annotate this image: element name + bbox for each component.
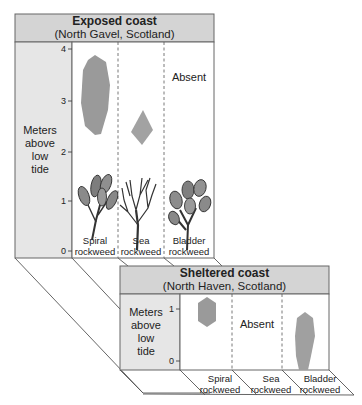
sheltered-sea-absent: Absent bbox=[232, 318, 282, 330]
label-line: rockweed bbox=[295, 385, 345, 396]
tick-0: 0 bbox=[52, 246, 66, 256]
y-label-line: tide bbox=[15, 163, 65, 176]
sheltered-col-label-bladder: Bladder rockweed bbox=[295, 374, 345, 395]
y-label-line: above bbox=[120, 319, 172, 332]
sheltered-subtitle: (North Haven, Scotland) bbox=[120, 280, 329, 293]
label-line: Sea bbox=[118, 236, 164, 247]
tick-1: 1 bbox=[52, 196, 66, 206]
sheltered-col-label-sea: Sea rockweed bbox=[246, 374, 296, 395]
label-line: rockweed bbox=[72, 247, 118, 258]
tick-0: 0 bbox=[160, 356, 174, 366]
label-line: Bladder bbox=[164, 236, 214, 247]
exposed-col-label-spiral: Spiral rockweed bbox=[72, 236, 118, 257]
label-line: Spiral bbox=[72, 236, 118, 247]
exposed-bladder-absent: Absent bbox=[164, 71, 214, 83]
exposed-col-label-sea: Sea rockweed bbox=[118, 236, 164, 257]
tick-4: 4 bbox=[52, 44, 66, 54]
label-line: rockweed bbox=[118, 247, 164, 258]
label-line: rockweed bbox=[196, 385, 244, 396]
tick-2: 2 bbox=[52, 147, 66, 157]
label-line: rockweed bbox=[164, 247, 214, 258]
tick-3: 3 bbox=[52, 96, 66, 106]
label-line: Sea bbox=[246, 374, 296, 385]
exposed-col-label-bladder: Bladder rockweed bbox=[164, 236, 214, 257]
tick-1: 1 bbox=[160, 304, 174, 314]
spiral-rockweed-range-sheltered bbox=[198, 297, 216, 327]
exposed-title: Exposed coast bbox=[15, 15, 214, 28]
y-label-line: Meters bbox=[15, 124, 65, 137]
label-line: Spiral bbox=[196, 374, 244, 385]
sheltered-title: Sheltered coast bbox=[120, 267, 329, 280]
label-line: rockweed bbox=[246, 385, 296, 396]
exposed-subtitle: (North Gavel, Scotland) bbox=[15, 28, 214, 41]
y-label-line: low bbox=[120, 332, 172, 345]
label-line: Bladder bbox=[295, 374, 345, 385]
sheltered-col-label-spiral: Spiral rockweed bbox=[196, 374, 244, 395]
